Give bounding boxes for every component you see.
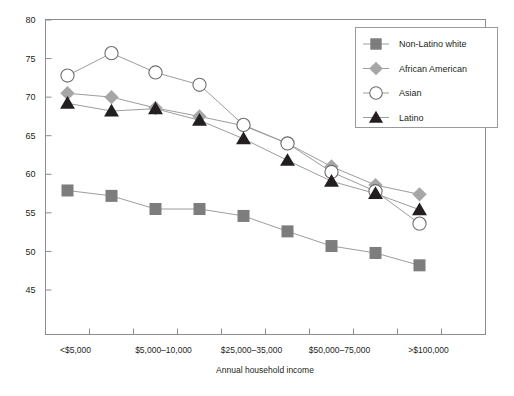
- legend-item[interactable]: Non-Latino white: [363, 38, 467, 49]
- legend-item-label: Asian: [399, 88, 422, 98]
- x-axis-tick-label: $5,000–10,000: [135, 345, 192, 355]
- marker-circle: [61, 69, 74, 82]
- y-axis-tick-label: 60: [25, 169, 35, 179]
- x-axis-tick-labels: <$5,000$5,000–10,000$25,000–35,000$50,00…: [60, 345, 449, 355]
- legend-item-label: African American: [399, 64, 467, 74]
- legend-item-label: Non-Latino white: [399, 39, 467, 49]
- marker-triangle: [412, 203, 427, 216]
- y-axis-tick-label: 65: [25, 131, 35, 141]
- marker-square: [62, 184, 74, 196]
- marker-square: [150, 203, 162, 215]
- y-axis-tick-label: 75: [25, 54, 35, 64]
- marker-square: [370, 38, 381, 49]
- legend-item-label: Latino: [399, 113, 424, 123]
- marker-diamond: [412, 187, 426, 201]
- x-axis-title: Annual household income: [216, 365, 314, 375]
- marker-circle: [413, 217, 426, 230]
- marker-square: [414, 259, 426, 271]
- marker-circle: [370, 87, 383, 100]
- x-axis-ticks: [90, 329, 442, 335]
- marker-square: [282, 225, 294, 237]
- marker-diamond: [104, 90, 118, 104]
- marker-square: [238, 210, 250, 222]
- marker-square: [194, 203, 206, 215]
- y-axis: 4550556065707580: [25, 15, 51, 295]
- y-axis-tick-label: 50: [25, 247, 35, 257]
- line-chart: 4550556065707580 <$5,000$5,000–10,000$25…: [0, 0, 514, 396]
- marker-square: [370, 247, 382, 259]
- y-axis-tick-label: 70: [25, 92, 35, 102]
- marker-triangle: [236, 132, 251, 145]
- series-line: [68, 190, 420, 265]
- y-axis-tick-label: 55: [25, 208, 35, 218]
- y-axis-tick-label: 45: [25, 285, 35, 295]
- marker-circle: [105, 47, 118, 60]
- chart-legend: Non-Latino whiteAfrican AmericanAsianLat…: [356, 28, 498, 128]
- x-axis-tick-label: >$100,000: [408, 345, 449, 355]
- marker-triangle: [60, 96, 75, 109]
- x-axis-tick-label: $50,000–75,000: [309, 345, 371, 355]
- chart-figure: 4550556065707580 <$5,000$5,000–10,000$25…: [0, 0, 514, 396]
- marker-square: [106, 190, 118, 202]
- x-axis-tick-label: $25,000–35,000: [221, 345, 283, 355]
- y-axis-tick-label: 80: [25, 15, 35, 25]
- marker-circle: [281, 137, 294, 150]
- marker-triangle: [280, 153, 295, 166]
- series-polyline: [68, 190, 420, 265]
- marker-circle: [237, 118, 250, 131]
- marker-square: [326, 240, 338, 252]
- x-axis-tick-label: <$5,000: [60, 345, 91, 355]
- marker-circle: [149, 66, 162, 79]
- marker-circle: [193, 78, 206, 91]
